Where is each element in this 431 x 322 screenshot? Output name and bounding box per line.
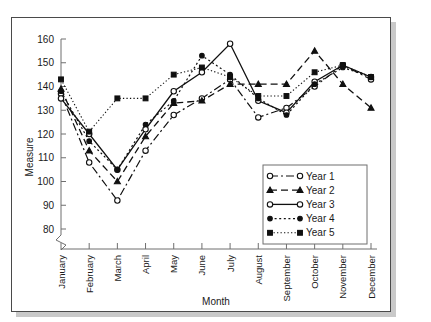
legend-marker — [268, 230, 273, 235]
data-point — [256, 94, 261, 99]
data-point — [143, 122, 148, 127]
data-point — [171, 112, 176, 117]
series-year-5 — [59, 63, 374, 134]
data-point — [87, 129, 92, 134]
x-tick-label: July — [225, 255, 236, 272]
legend-label: Year 3 — [306, 199, 335, 210]
y-tick-label: 100 — [37, 176, 54, 187]
data-point — [369, 75, 374, 80]
data-point — [284, 113, 289, 118]
data-point — [58, 96, 63, 101]
chart-legend: Year 1Year 2Year 3Year 4Year 5 — [263, 165, 367, 244]
data-point — [115, 167, 120, 172]
data-point — [228, 75, 233, 80]
data-point — [171, 72, 176, 77]
data-point — [284, 94, 289, 99]
data-point — [87, 139, 92, 144]
data-point — [171, 89, 176, 94]
line-chart: 8090100110120130140150160 JanuaryFebruar… — [11, 17, 391, 312]
legend-marker — [298, 230, 303, 235]
data-point — [312, 48, 318, 53]
legend-label: Year 5 — [306, 227, 335, 238]
data-point — [115, 198, 120, 203]
x-tick-label: May — [168, 255, 179, 273]
x-tick-label: June — [196, 255, 207, 276]
legend-marker — [267, 202, 272, 207]
data-point — [200, 53, 205, 58]
data-point — [283, 81, 289, 86]
y-tick-label: 110 — [38, 152, 54, 163]
data-point — [59, 89, 64, 94]
y-tick-label: 80 — [43, 224, 55, 235]
legend-label: Year 2 — [306, 185, 335, 196]
y-tick-label: 90 — [43, 200, 55, 211]
legend-marker — [297, 173, 302, 178]
y-axis: 8090100110120130140150160 — [37, 34, 66, 250]
data-point — [59, 77, 64, 82]
x-tick-label: August — [253, 255, 264, 285]
x-tick-label: March — [112, 255, 123, 281]
y-tick-label: 120 — [37, 129, 54, 140]
data-point — [143, 148, 148, 153]
legend-marker — [268, 216, 273, 221]
x-tick-label: April — [140, 255, 151, 274]
data-point — [340, 63, 345, 68]
data-point — [143, 127, 148, 132]
x-tick-label: February — [84, 255, 95, 293]
x-tick-label: October — [309, 255, 320, 289]
series-line — [61, 44, 371, 170]
x-tick-label: September — [281, 255, 292, 301]
data-point — [143, 96, 148, 101]
x-axis-title: Month — [202, 296, 230, 307]
x-tick-label: November — [337, 255, 348, 299]
series-line — [61, 65, 371, 132]
x-axis: JanuaryFebruaryMarchAprilMayJuneJulyAugu… — [56, 243, 378, 301]
data-point — [312, 70, 317, 75]
legend-label: Year 1 — [306, 171, 335, 182]
series-year-2 — [58, 48, 374, 184]
data-point — [227, 41, 232, 46]
legend-label: Year 4 — [306, 213, 335, 224]
series-line — [61, 56, 371, 170]
data-point — [86, 160, 91, 165]
legend-marker — [297, 202, 302, 207]
data-point — [255, 81, 261, 86]
y-tick-label: 150 — [37, 57, 54, 68]
series-year-3 — [58, 41, 373, 172]
data-point — [200, 65, 205, 70]
y-tick-label: 130 — [37, 105, 54, 116]
series-line — [61, 51, 371, 182]
y-tick-label: 160 — [37, 34, 54, 45]
data-point — [312, 82, 317, 87]
legend-marker — [267, 173, 272, 178]
x-tick-label: December — [366, 255, 377, 299]
y-tick-label: 140 — [37, 81, 54, 92]
x-tick-label: January — [56, 255, 67, 289]
y-axis-title: Measure — [24, 137, 35, 176]
data-point — [256, 115, 261, 120]
data-point — [86, 148, 92, 153]
data-point — [115, 96, 120, 101]
legend-marker — [298, 216, 303, 221]
data-point — [171, 98, 176, 103]
